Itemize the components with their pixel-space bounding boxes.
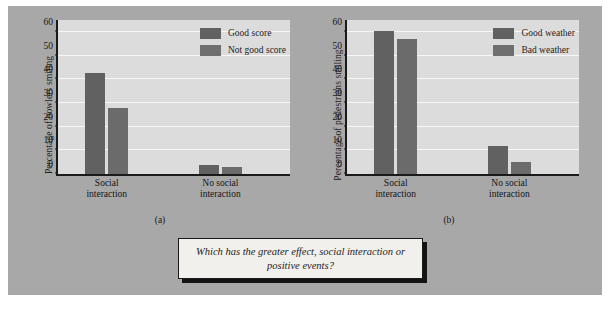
chart-a-ytick-mark bbox=[55, 30, 58, 31]
chart-a-bar bbox=[222, 167, 242, 174]
chart-b-bar bbox=[397, 39, 417, 174]
chart-b-bar bbox=[511, 162, 531, 174]
chart-a-ytick-label: 20 bbox=[44, 112, 54, 122]
chart-a-ytick-label: 50 bbox=[44, 41, 54, 51]
legend-item: Good score bbox=[200, 26, 286, 40]
chart-a-ytick-label: 10 bbox=[44, 135, 54, 145]
xtick-line: interaction bbox=[86, 189, 127, 200]
xtick-line: Social bbox=[86, 178, 127, 189]
chart-a-xtick-label: Socialinteraction bbox=[86, 178, 127, 200]
xtick-line: No social bbox=[200, 178, 241, 189]
chart-b-bar bbox=[488, 146, 508, 174]
xtick-line: No social bbox=[489, 178, 530, 189]
chart-a-ytick-label: 30 bbox=[44, 88, 54, 98]
chart-b-xtick-label: No socialinteraction bbox=[489, 178, 530, 200]
chart-a-ytick-mark bbox=[55, 173, 58, 174]
xtick-line: interaction bbox=[489, 189, 530, 200]
legend-item: Not good score bbox=[200, 43, 286, 57]
xtick-line: interaction bbox=[375, 189, 416, 200]
xtick-line: interaction bbox=[200, 189, 241, 200]
chart-b-ytick-label: 60 bbox=[333, 17, 343, 27]
legend-label: Not good score bbox=[228, 45, 286, 55]
chart-a-ytick-mark bbox=[55, 78, 58, 79]
chart-a-ytick-mark bbox=[55, 101, 58, 102]
chart-b-legend: Good weatherBad weather bbox=[493, 26, 575, 60]
chart-b-ytick-mark bbox=[344, 30, 347, 31]
chart-a-ytick-label: 60 bbox=[44, 17, 54, 27]
chart-b-ytick-mark bbox=[344, 101, 347, 102]
chart-b-ytick-mark bbox=[344, 149, 347, 150]
chart-b: Percentage of pedestrians smiling 010203… bbox=[311, 20, 583, 210]
chart-a-bar bbox=[85, 73, 105, 174]
chart-a-ytick-mark bbox=[55, 54, 58, 55]
legend-label: Good weather bbox=[521, 28, 575, 38]
chart-b-ytick-label: 40 bbox=[333, 64, 343, 74]
chart-a-xtick-label: No socialinteraction bbox=[200, 178, 241, 200]
chart-a-bar bbox=[199, 165, 219, 174]
chart-b-ytick-mark bbox=[344, 78, 347, 79]
chart-b-ytick-label: 0 bbox=[337, 159, 342, 169]
chart-a-ytick-mark bbox=[55, 125, 58, 126]
question-text: Which has the greater effect, social int… bbox=[179, 245, 422, 273]
chart-a-ytick-label: 0 bbox=[48, 159, 53, 169]
chart-b-ytick-label: 10 bbox=[333, 135, 343, 145]
chart-b-ytick-mark bbox=[344, 173, 347, 174]
chart-a-legend: Good scoreNot good score bbox=[200, 26, 286, 60]
chart-a-plot-wrap: 0102030405060SocialinteractionNo sociali… bbox=[56, 20, 290, 176]
legend-label: Bad weather bbox=[521, 45, 569, 55]
subcaption-a: (a) bbox=[155, 215, 166, 225]
chart-a-bar bbox=[108, 108, 128, 174]
chart-b-ytick-mark bbox=[344, 54, 347, 55]
chart-b-bar bbox=[374, 31, 394, 174]
legend-label: Good score bbox=[228, 28, 272, 38]
subcaption-b: (b) bbox=[443, 215, 454, 225]
chart-b-xtick-label: Socialinteraction bbox=[375, 178, 416, 200]
legend-swatch bbox=[200, 45, 221, 56]
legend-swatch bbox=[493, 28, 514, 39]
legend-swatch bbox=[200, 28, 221, 39]
legend-swatch bbox=[493, 45, 514, 56]
chart-b-ytick-label: 30 bbox=[333, 88, 343, 98]
question-box: Which has the greater effect, social int… bbox=[178, 238, 423, 279]
chart-a-ytick-mark bbox=[55, 149, 58, 150]
figure-panel: Percentage of bowlers smiling 0102030405… bbox=[8, 6, 602, 295]
chart-b-ytick-label: 50 bbox=[333, 41, 343, 51]
chart-b-ytick-label: 20 bbox=[333, 112, 343, 122]
legend-item: Good weather bbox=[493, 26, 575, 40]
xtick-line: Social bbox=[375, 178, 416, 189]
chart-b-ytick-mark bbox=[344, 125, 347, 126]
chart-b-plot-wrap: 0102030405060SocialinteractionNo sociali… bbox=[345, 20, 579, 176]
chart-a-ytick-label: 40 bbox=[44, 64, 54, 74]
chart-a: Percentage of bowlers smiling 0102030405… bbox=[22, 20, 294, 210]
legend-item: Bad weather bbox=[493, 43, 575, 57]
